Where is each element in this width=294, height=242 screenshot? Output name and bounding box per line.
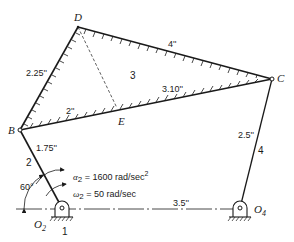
label-e: E <box>117 115 125 127</box>
dim-o4c: 2.5'' <box>238 130 254 140</box>
linkage-diagram: D C B E O2 O4 1 2 3 4 2.25'' 4'' 2'' 3.1… <box>0 0 294 242</box>
alpha-equation: α2 = 1600 rad/sec2 <box>73 170 148 184</box>
pivot-o2-icon <box>50 201 73 221</box>
label-d: D <box>73 11 82 23</box>
omega-equation: ω2 = 50 rad/sec <box>73 189 137 201</box>
dim-bd: 2.25'' <box>26 68 47 78</box>
link-number-3: 3 <box>130 70 136 81</box>
link-number-2: 2 <box>26 157 32 168</box>
dim-dc: 4'' <box>168 39 177 49</box>
joint-c <box>270 77 274 81</box>
angle-label: 60° <box>20 182 34 192</box>
link-number-1: 1 <box>62 226 68 237</box>
omega-arrow-icon <box>46 184 66 196</box>
label-o4: O4 <box>254 203 266 218</box>
dim-o2o4: 3.5'' <box>173 198 189 208</box>
dim-bc: 3.10'' <box>162 84 183 94</box>
dim-be: 2'' <box>66 106 75 116</box>
pivot-o4-icon <box>228 201 251 221</box>
dim-o2b: 1.75'' <box>36 143 57 153</box>
link-number-4: 4 <box>258 145 264 156</box>
label-o2: O2 <box>34 218 46 233</box>
coupler-link-3 <box>20 27 272 130</box>
joint-b <box>18 128 22 132</box>
rocker-link-4 <box>240 79 272 208</box>
crank-link-2 <box>20 130 62 208</box>
label-b: B <box>8 124 15 136</box>
joint-d <box>77 26 79 28</box>
label-c: C <box>277 72 285 84</box>
angle-arc <box>24 175 43 209</box>
